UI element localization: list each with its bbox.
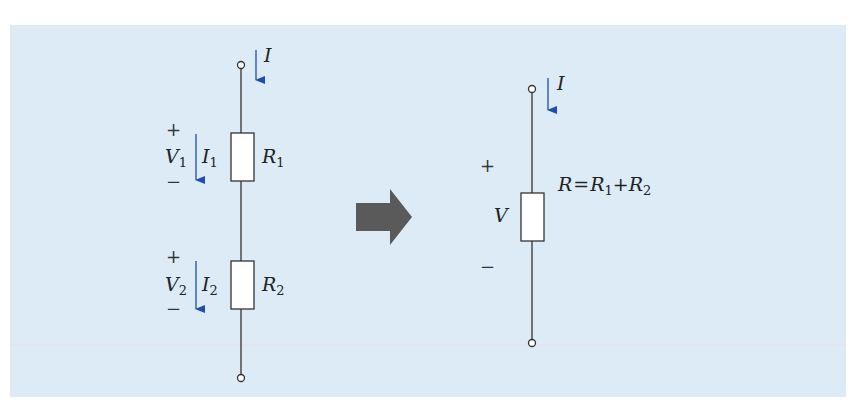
- circuit-diagram: I R1 + V1 − I1 R2 + V2 − I2 I + V − R=R1…: [0, 0, 861, 412]
- equivalent-circuit: I + V − R=R1+R2: [480, 72, 651, 347]
- v1-minus-sign: −: [166, 171, 181, 192]
- right-top-terminal: [529, 86, 536, 93]
- v-plus-sign: +: [480, 155, 495, 176]
- right-current-label: I: [556, 72, 565, 94]
- left-current-label: I: [263, 44, 272, 66]
- v-minus-sign: −: [480, 256, 495, 277]
- equivalent-resistance-equation: R=R1+R2: [557, 173, 651, 198]
- v1-plus-sign: +: [166, 119, 181, 140]
- v2-plus-sign: +: [166, 246, 181, 267]
- r2-label: R2: [261, 273, 285, 298]
- resistor-r1: [231, 133, 254, 181]
- right-bottom-terminal: [529, 340, 536, 347]
- v-label: V: [494, 204, 510, 226]
- i1-label: I1: [201, 145, 218, 170]
- resistor-r-equivalent: [521, 193, 544, 241]
- resistor-r2: [231, 261, 254, 309]
- v2-label: V2: [165, 273, 187, 298]
- left-series-circuit: I R1 + V1 − I1 R2 + V2 − I2: [165, 44, 285, 382]
- r1-label: R1: [261, 145, 285, 170]
- v2-minus-sign: −: [166, 298, 181, 319]
- v1-label: V1: [165, 145, 187, 170]
- left-top-terminal: [238, 62, 245, 69]
- transform-arrow-icon: [356, 189, 412, 245]
- left-bottom-terminal: [238, 375, 245, 382]
- i2-label: I2: [201, 273, 218, 298]
